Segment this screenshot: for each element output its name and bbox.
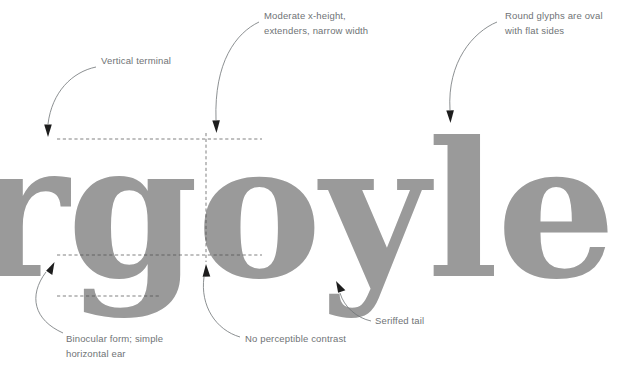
annotation-binocular-form-line-2: horizontal ear <box>66 347 163 362</box>
guide-lines <box>57 133 262 296</box>
annotation-vertical-terminal: Vertical terminal <box>101 54 171 69</box>
annotation-round-glyphs-line-2: with flat sides <box>505 24 603 39</box>
typography-specimen-diagram: rgoyle <box>0 0 637 373</box>
annotation-round-glyphs: Round glyphs are oval with flat sides <box>505 9 603 38</box>
annotation-overlay <box>0 0 637 373</box>
annotation-x-height: Moderate x-height, extenders, narrow wid… <box>264 9 368 38</box>
leader-round-glyphs <box>446 22 497 123</box>
annotation-x-height-line-2: extenders, narrow width <box>264 24 368 39</box>
leader-no-contrast <box>203 264 240 337</box>
annotation-x-height-line-1: Moderate x-height, <box>264 9 368 24</box>
leader-seriffed-tail <box>336 281 371 321</box>
leader-vertical-terminal <box>44 67 96 137</box>
annotation-no-contrast-line-1: No perceptible contrast <box>245 332 346 347</box>
annotation-vertical-terminal-line-1: Vertical terminal <box>101 54 171 69</box>
annotation-seriffed-tail: Seriffed tail <box>375 314 424 329</box>
annotation-binocular-form: Binocular form; simple horizontal ear <box>66 332 163 361</box>
annotation-seriffed-tail-line-1: Seriffed tail <box>375 314 424 329</box>
annotation-binocular-form-line-1: Binocular form; simple <box>66 332 163 347</box>
annotation-round-glyphs-line-1: Round glyphs are oval <box>505 9 603 24</box>
annotation-no-contrast: No perceptible contrast <box>245 332 346 347</box>
leader-x-height <box>212 22 259 133</box>
leader-binocular-form <box>36 262 63 333</box>
